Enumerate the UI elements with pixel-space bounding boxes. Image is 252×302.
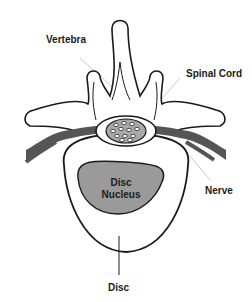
- label-disc: Disc: [108, 282, 129, 293]
- label-vertebra: Vertebra: [46, 34, 86, 45]
- spine-diagram: [0, 0, 252, 302]
- label-disc-nucleus-line2: Nucleus: [96, 189, 146, 201]
- label-spinal-cord: Spinal Cord: [186, 68, 242, 79]
- label-disc-nucleus: Disc Nucleus: [96, 177, 146, 201]
- label-nerve: Nerve: [205, 185, 233, 196]
- label-disc-nucleus-line1: Disc: [96, 177, 146, 189]
